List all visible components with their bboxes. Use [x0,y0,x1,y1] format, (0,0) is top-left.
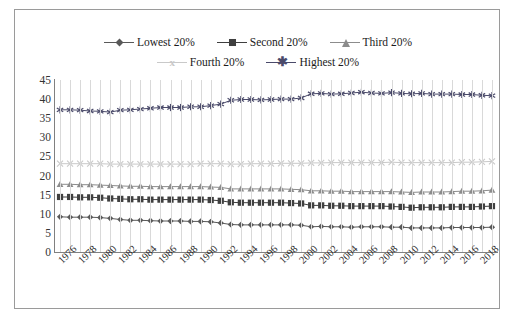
x-axis-tick-label: 1976 [56,243,79,266]
x-axis-tick-label: 2008 [377,243,400,266]
x-axis-labels: 1976197819801982198419861988199019921994… [15,10,501,310]
x-axis-tick-label: 2004 [337,243,360,266]
x-axis-tick-label: 2010 [398,243,421,266]
x-axis-tick-label: 2012 [418,243,441,266]
x-axis-tick-label: 1978 [76,243,99,266]
x-axis-tick-label: 1986 [156,243,179,266]
x-axis-tick-label: 2006 [357,243,380,266]
x-axis-tick-label: 2016 [458,243,481,266]
x-axis-tick-label: 1994 [237,243,260,266]
x-axis-tick-label: 1982 [116,243,139,266]
x-axis-tick-label: 2002 [317,243,340,266]
x-axis-tick-label: 1980 [96,243,119,266]
x-axis-tick-label: 1988 [177,243,200,266]
x-axis-tick-label: 1990 [197,243,220,266]
chart-frame: Lowest 20% Second 20% Third 20% xFourth … [14,9,500,309]
x-axis-tick-label: 1996 [257,243,280,266]
x-axis-tick-label: 2018 [478,243,501,266]
x-axis-tick-label: 1992 [217,243,240,266]
x-axis-tick-label: 1998 [277,243,300,266]
x-axis-tick-label: 2014 [438,243,461,266]
x-axis-tick-label: 2000 [297,243,320,266]
x-axis-tick-label: 1984 [136,243,159,266]
